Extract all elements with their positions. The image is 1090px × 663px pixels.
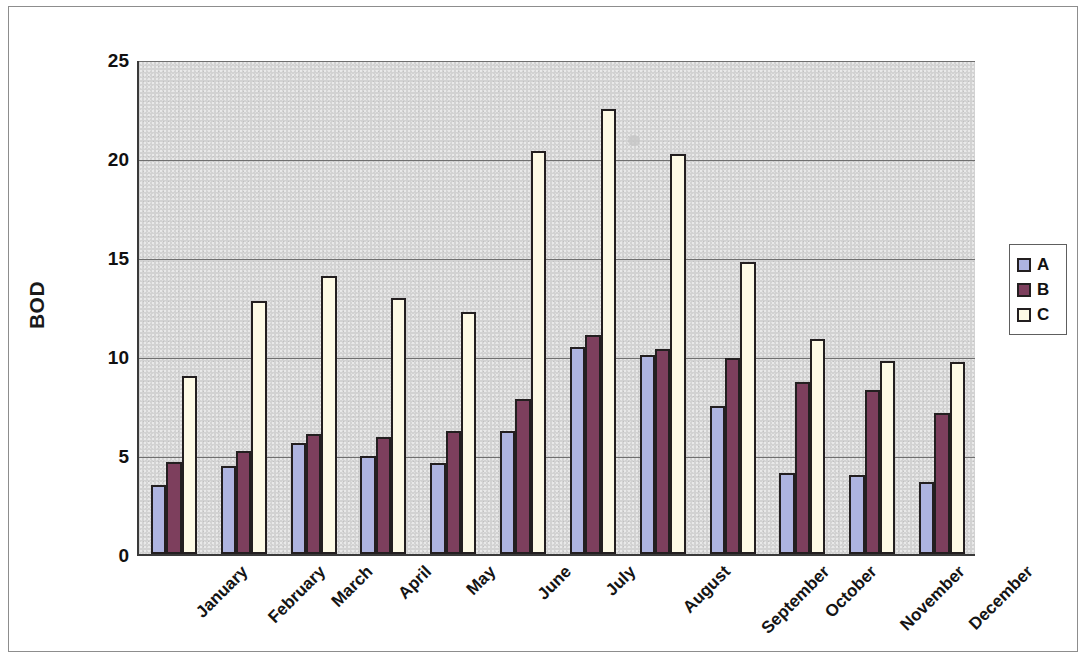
bar-b-april	[376, 437, 391, 554]
y-tick-label: 5	[85, 447, 129, 466]
x-tick-label-december: December	[966, 562, 1038, 634]
chart-figure: BOD 0510152025 JanuaryFebruaryMarchApril…	[8, 6, 1078, 652]
x-tick-label-august: August	[679, 562, 735, 618]
x-tick-label-july: July	[602, 562, 640, 600]
y-tick-mark	[137, 61, 139, 62]
bar-a-november	[849, 475, 864, 554]
y-tick-label: 20	[85, 150, 129, 169]
bar-c-may	[461, 312, 476, 554]
legend-swatch-icon	[1017, 283, 1031, 297]
bar-c-february	[251, 301, 266, 554]
bar-c-july	[601, 109, 616, 555]
gridline	[139, 259, 975, 260]
bar-c-september	[740, 262, 755, 554]
y-tick-mark	[137, 357, 139, 359]
legend-item-label: B	[1037, 281, 1049, 298]
x-tick-label-november: November	[896, 562, 969, 635]
bar-a-march	[291, 443, 306, 554]
legend-item-label: C	[1037, 306, 1049, 323]
bar-b-june	[515, 399, 530, 554]
legend-item-b[interactable]: B	[1017, 277, 1058, 302]
legend-swatch-icon	[1017, 308, 1031, 322]
bar-b-may	[446, 431, 461, 554]
bar-a-august	[640, 355, 655, 554]
x-tick-label-june: June	[534, 562, 576, 604]
x-tick-label-september: September	[758, 562, 834, 638]
legend-item-c[interactable]: C	[1017, 302, 1058, 327]
x-tick-label-january: January	[192, 562, 252, 622]
plot-area	[137, 61, 975, 556]
bar-b-february	[236, 451, 251, 554]
bar-b-december	[934, 413, 949, 554]
bar-a-october	[779, 473, 794, 554]
bar-c-june	[531, 151, 546, 554]
bar-c-august	[670, 154, 685, 554]
x-tick-label-march: March	[328, 562, 378, 612]
legend-swatch-icon	[1017, 258, 1031, 272]
x-tick-label-may: May	[462, 562, 500, 600]
bar-b-march	[306, 434, 321, 554]
y-tick-label: 0	[85, 546, 129, 565]
bar-a-december	[919, 482, 934, 554]
bar-b-october	[795, 382, 810, 554]
bar-a-june	[500, 431, 515, 554]
x-tick-label-february: February	[264, 562, 330, 628]
scan-artifact	[628, 135, 640, 146]
y-tick-mark	[137, 456, 139, 458]
gridline	[139, 61, 975, 62]
legend-item-a[interactable]: A	[1017, 252, 1058, 277]
y-axis-title: BOD	[25, 245, 49, 365]
x-tick-label-april: April	[394, 562, 436, 604]
bar-c-march	[321, 276, 336, 554]
chart-legend: ABC	[1009, 244, 1067, 335]
bar-b-august	[655, 349, 670, 554]
bar-c-november	[880, 361, 895, 554]
bar-b-november	[865, 390, 880, 554]
y-tick-mark	[137, 258, 139, 260]
y-tick-label: 25	[85, 51, 129, 70]
bar-b-september	[725, 358, 740, 554]
bar-c-october	[810, 339, 825, 554]
bar-b-july	[585, 335, 600, 554]
bar-a-september	[710, 406, 725, 555]
bar-a-january	[151, 485, 166, 554]
x-axis-tick-labels: JanuaryFebruaryMarchAprilMayJuneJulyAugu…	[137, 556, 975, 663]
bar-c-december	[950, 362, 965, 554]
legend-item-label: A	[1037, 256, 1049, 273]
bar-b-january	[166, 462, 181, 554]
y-tick-label: 10	[85, 348, 129, 367]
y-tick-label: 15	[85, 249, 129, 268]
bar-a-july	[570, 347, 585, 554]
bar-c-january	[182, 376, 197, 554]
y-axis-tick-labels: 0510152025	[77, 7, 129, 663]
y-tick-mark	[137, 159, 139, 161]
bar-a-february	[221, 466, 236, 554]
gridline	[139, 160, 975, 161]
bar-a-april	[360, 456, 375, 554]
bar-a-may	[430, 463, 445, 554]
bar-c-april	[391, 298, 406, 554]
